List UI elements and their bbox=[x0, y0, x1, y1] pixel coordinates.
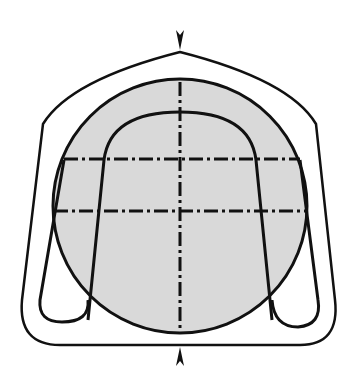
bottom-arrow bbox=[176, 347, 184, 366]
top-arrow bbox=[176, 30, 184, 50]
diagram-canvas bbox=[0, 0, 364, 382]
